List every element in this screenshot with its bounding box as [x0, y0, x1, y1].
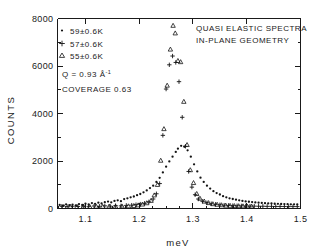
data-point-dot — [251, 201, 253, 203]
data-point-dot — [290, 203, 292, 205]
data-point-dot — [235, 199, 237, 201]
data-point-dot — [59, 204, 61, 206]
data-point-plus — [190, 185, 194, 189]
data-point-dot — [222, 195, 224, 197]
data-point-dot — [84, 203, 86, 205]
data-point-dot — [241, 200, 243, 202]
data-point-dot — [219, 193, 221, 195]
y-tick-label: 4000 — [32, 109, 54, 119]
data-point-dot — [120, 200, 122, 202]
plus-marker-icon — [59, 41, 65, 47]
title-line-1: QUASI ELASTIC SPECTRA — [196, 24, 307, 33]
legend: 59±0.6K 57±0.6K 55±0.6K — [59, 27, 103, 61]
data-point-dot — [261, 202, 263, 204]
chart-canvas: 1.11.21.31.41.5 02000400060008000 meV CO… — [0, 0, 311, 252]
data-point-triangle — [173, 31, 177, 35]
data-point-dot — [225, 196, 227, 198]
x-tick-label: 1.2 — [132, 214, 146, 224]
x-tick-label: 1.5 — [294, 214, 308, 224]
data-point-dot — [133, 195, 135, 197]
legend-label-59K: 59±0.6K — [70, 27, 103, 36]
data-point-dot — [199, 176, 201, 178]
x-axis-tick-labels: 1.11.21.31.41.5 — [79, 214, 308, 224]
data-point-dot — [180, 145, 182, 147]
y-tick-label: 8000 — [32, 14, 54, 24]
q-value-exponent: -1 — [105, 69, 111, 75]
data-point-plus — [269, 204, 273, 208]
data-point-plus — [161, 133, 165, 137]
data-point-dot — [123, 198, 125, 200]
legend-label-55K: 55±0.6K — [70, 52, 103, 61]
data-point-dot — [159, 177, 161, 179]
data-point-dot — [177, 148, 179, 150]
data-point-dot — [277, 203, 279, 205]
q-value-annotation: Q = 0.93 Å-1 — [62, 69, 111, 80]
data-point-triangle — [155, 182, 159, 186]
data-point-plus — [170, 54, 174, 58]
data-point-triangle — [159, 158, 163, 162]
data-point-dot — [126, 197, 128, 199]
data-point-triangle — [171, 23, 175, 27]
data-point-triangle — [168, 47, 172, 51]
x-tick-label: 1.4 — [240, 214, 254, 224]
legend-item-55K: 55±0.6K — [59, 52, 103, 61]
x-tick-label: 1.1 — [79, 214, 93, 224]
data-point-plus — [177, 79, 181, 83]
data-point-dot — [264, 202, 266, 204]
data-point-dot — [168, 160, 170, 162]
legend-item-59K: 59±0.6K — [61, 27, 104, 36]
data-point-dot — [257, 202, 259, 204]
data-point-dot — [162, 171, 164, 173]
y-tick-label: 6000 — [32, 61, 54, 71]
data-point-triangle — [182, 99, 186, 103]
data-point-dot — [91, 202, 93, 204]
annotations: Q = 0.93 Å-1 COVERAGE 0.63 — [62, 69, 132, 95]
data-point-dot — [139, 193, 141, 195]
y-axis-title: COUNTS — [5, 96, 16, 145]
data-point-triangle — [191, 181, 195, 185]
data-point-dot — [238, 199, 240, 201]
legend-item-57K: 57±0.6K — [59, 40, 103, 49]
data-point-dot — [97, 202, 99, 204]
data-point-dot — [146, 189, 148, 191]
data-point-dot — [175, 151, 177, 153]
x-axis-title: meV — [166, 237, 190, 248]
data-point-plus — [167, 63, 171, 67]
data-point-dot — [171, 156, 173, 158]
data-point-plus — [265, 204, 269, 208]
dot-marker-icon — [61, 29, 63, 31]
data-point-dot — [193, 163, 195, 165]
data-point-dot — [190, 156, 192, 158]
data-point-dot — [212, 190, 214, 192]
data-point-dot — [206, 185, 208, 187]
data-point-dot — [113, 200, 115, 202]
data-point-dot — [104, 201, 106, 203]
figure-title: QUASI ELASTIC SPECTRA IN-PLANE GEOMETRY — [196, 24, 307, 45]
data-point-dot — [196, 170, 198, 172]
legend-label-57K: 57±0.6K — [70, 40, 103, 49]
data-point-dot — [228, 197, 230, 199]
data-point-dot — [203, 181, 205, 183]
data-point-dot — [149, 187, 151, 189]
data-point-dot — [142, 191, 144, 193]
data-point-dot — [254, 201, 256, 203]
series-dot — [59, 145, 299, 207]
data-point-dot — [232, 198, 234, 200]
y-tick-label: 0 — [48, 204, 53, 214]
y-tick-label: 2000 — [32, 156, 54, 166]
data-point-plus — [180, 115, 184, 119]
data-point-dot — [215, 192, 217, 194]
data-point-triangle — [162, 127, 166, 131]
data-point-dot — [209, 187, 211, 189]
data-point-dot — [165, 166, 167, 168]
q-value-text: Q = 0.93 Å — [62, 70, 106, 79]
data-point-dot — [107, 200, 109, 202]
data-point-dot — [110, 201, 112, 203]
data-point-dot — [129, 196, 131, 198]
data-point-dot — [186, 149, 188, 151]
coverage-annotation: COVERAGE 0.63 — [62, 85, 132, 94]
title-line-2: IN-PLANE GEOMETRY — [196, 36, 289, 45]
data-point-plus — [261, 204, 265, 208]
data-point-dot — [117, 199, 119, 201]
data-point-dot — [136, 194, 138, 196]
